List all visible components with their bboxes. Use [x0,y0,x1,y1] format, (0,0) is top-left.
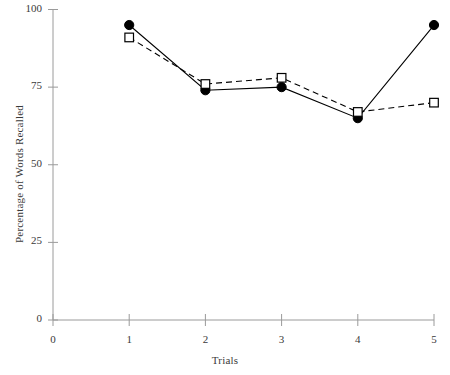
data-point-open-square [277,74,286,83]
x-tick-label: 0 [38,333,68,345]
axes-group [48,10,434,327]
data-point-open-square [201,80,210,89]
y-tick-label: 75 [8,79,42,91]
x-axis-title: Trials [0,354,450,366]
data-point-open-square [354,108,363,117]
x-tick-label: 4 [343,333,373,345]
line-chart: 0255075100 012345 Percentage of Words Re… [0,0,450,375]
series-group [125,20,439,122]
data-point-filled-circle [429,20,438,29]
x-tick-label: 2 [190,333,220,345]
plot-area [0,0,450,375]
y-tick-label: 0 [8,312,42,324]
y-tick-label: 100 [8,2,42,14]
data-point-filled-circle [277,83,286,92]
y-axis-title: Percentage of Words Recalled [13,94,25,254]
x-tick-label: 1 [114,333,144,345]
data-point-open-square [125,33,134,42]
data-point-open-square [430,98,439,107]
data-point-filled-circle [125,20,134,29]
series-line-filled-circle-series [129,25,434,118]
x-tick-label: 3 [267,333,297,345]
x-tick-label: 5 [419,333,449,345]
